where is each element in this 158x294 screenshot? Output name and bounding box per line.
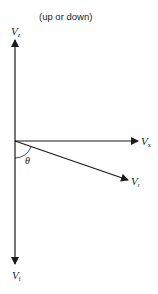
vz-label: Vz bbox=[11, 26, 20, 40]
direction-caption: (up or down) bbox=[39, 12, 92, 22]
vf-label: Vf bbox=[12, 270, 21, 284]
theta-label: θ bbox=[25, 156, 30, 166]
vx-label: Vx bbox=[141, 136, 151, 150]
vr-label: Vr bbox=[131, 176, 140, 190]
vector-canvas bbox=[0, 0, 158, 294]
velocity-vector-diagram: (up or down) Vz Vx Vr Vf θ bbox=[0, 0, 158, 294]
vr-arrow bbox=[15, 141, 128, 180]
